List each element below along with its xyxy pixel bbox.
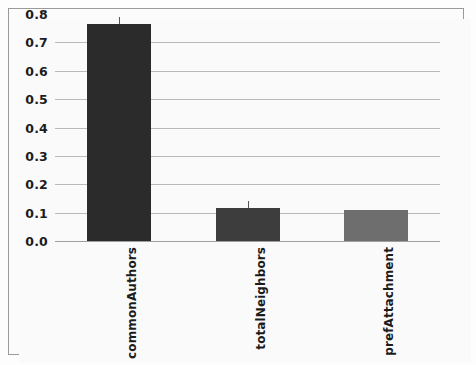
error-bar-tick [248,201,249,208]
chart-figure: 0.00.10.20.30.40.50.60.70.8 commonAuthor… [0,0,476,365]
y-tick-label: 0.7 [25,35,48,50]
y-tick-label: 0.3 [25,148,48,163]
y-tick-label: 0.5 [25,92,48,107]
y-tick-label: 0.6 [25,63,48,78]
x-tick-label: commonAuthors [125,247,139,359]
bar [87,24,151,241]
y-tick-label: 0.2 [25,177,48,192]
plot-area: 0.00.10.20.30.40.50.60.70.8 [55,14,440,241]
bar [216,208,280,241]
x-tick-label: totalNeighbors [254,247,268,350]
error-bar-tick [119,17,120,24]
y-tick-label: 0.1 [25,205,48,220]
y-tick-label: 0.8 [25,7,48,22]
y-tick-label: 0.4 [25,120,48,135]
y-tick-label: 0.0 [25,234,48,249]
bar [344,210,408,241]
gridline [55,14,440,15]
x-tick-label: prefAttachment [382,247,396,356]
axis-baseline [55,241,440,242]
